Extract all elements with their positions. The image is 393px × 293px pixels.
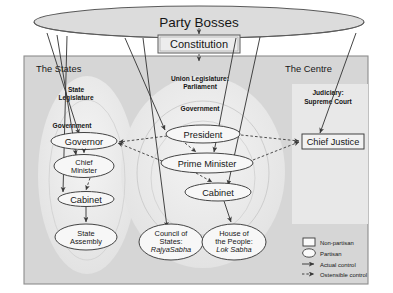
union-legislature-line2: Parliament: [183, 83, 218, 90]
diagram-canvas: Party Bosses Constitution The States The…: [0, 0, 393, 293]
rajya-sabha-label-3: RajyaSabha: [151, 245, 191, 254]
legend-label-non-partisan: Non-partisan: [320, 240, 354, 246]
state-government-caption: Government: [53, 122, 93, 129]
union-legislature-line1: Union Legislature:: [171, 75, 229, 83]
governor-label: Governor: [65, 137, 103, 147]
legend-label-actual-control: Actual control: [320, 262, 356, 268]
legend-item-partisan: Partisan: [303, 249, 342, 257]
node-prime-minister[interactable]: Prime Minister: [161, 153, 253, 173]
node-lok-sabha[interactable]: House of the People: Lok Sabha: [202, 224, 266, 260]
node-governor[interactable]: Governor: [51, 133, 117, 150]
legend-item-non-partisan: Non-partisan: [303, 238, 354, 246]
government-control-diagram: Party Bosses Constitution The States The…: [0, 0, 393, 293]
state-legislature-line2: Legislature: [58, 94, 94, 102]
zone-label-states: The States: [36, 63, 82, 74]
union-government-caption: Government: [181, 105, 221, 112]
node-rajya-sabha[interactable]: Council of States: RajyaSabha: [139, 224, 203, 260]
chief-justice-label: Chief Justice: [307, 137, 360, 147]
judiciary-line2: Supreme Court: [304, 98, 352, 106]
judiciary-line1: Judiciary:: [312, 89, 343, 97]
zone-label-centre: The Centre: [285, 63, 332, 74]
node-chief-justice[interactable]: Chief Justice: [302, 134, 364, 149]
state-assembly-label-2: Assembly: [70, 237, 102, 246]
legend-label-ostensible-control: Ostensible control: [320, 272, 367, 278]
square-outline-icon: [303, 238, 315, 246]
state-legislature-line1: State: [68, 86, 84, 93]
state-cabinet-label: Cabinet: [70, 195, 102, 205]
node-state-cabinet[interactable]: Cabinet: [58, 192, 114, 207]
constitution-node[interactable]: Constitution: [158, 35, 240, 53]
node-chief-minister[interactable]: Chief Minister: [54, 155, 114, 178]
chief-minister-label-2: Minister: [71, 166, 97, 175]
legend-label-partisan: Partisan: [320, 251, 342, 257]
party-bosses-label: Party Bosses: [159, 15, 239, 30]
prime-minister-label: Prime Minister: [178, 159, 237, 169]
node-state-assembly[interactable]: State Assembly: [55, 224, 117, 250]
node-president[interactable]: President: [166, 125, 240, 143]
constitution-label: Constitution: [170, 38, 228, 50]
union-cabinet-label: Cabinet: [202, 188, 234, 198]
ellipse-outline-icon: [303, 249, 316, 257]
lok-sabha-label-3: Lok Sabha: [216, 245, 251, 254]
node-union-cabinet[interactable]: Cabinet: [185, 183, 251, 201]
president-label: President: [184, 130, 223, 140]
